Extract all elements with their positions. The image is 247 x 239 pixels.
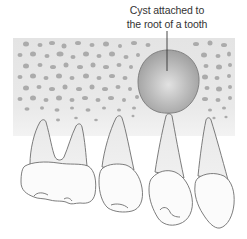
dental-illustration [0, 0, 247, 239]
bone [13, 38, 235, 136]
cyst [138, 50, 199, 113]
